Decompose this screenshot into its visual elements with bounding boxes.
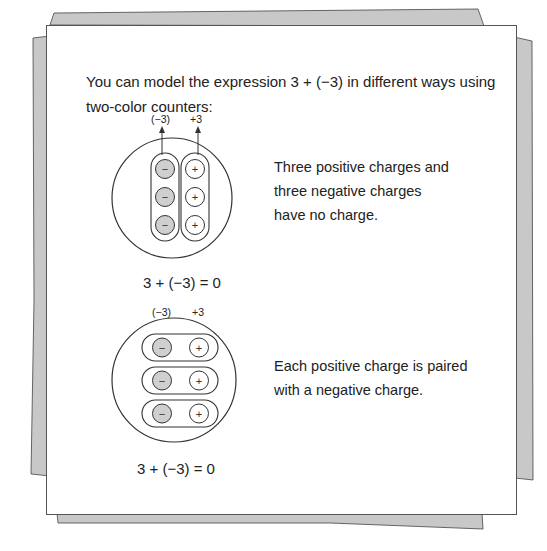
svg-text:−: − [159, 408, 165, 420]
model2-description: Each positive charge is paired with a ne… [274, 354, 467, 402]
model2-diagram: − − − + + + [0, 0, 547, 551]
svg-text:+: + [196, 408, 202, 420]
svg-text:+: + [196, 375, 202, 387]
model2-label-negative: (−3) [152, 306, 171, 318]
svg-text:−: − [159, 342, 165, 354]
svg-text:+: + [196, 342, 202, 354]
negative-counters: − − − [153, 338, 172, 423]
positive-counters: + + + [190, 338, 209, 423]
model2-equation: 3 + (−3) = 0 [137, 460, 215, 477]
svg-text:−: − [159, 375, 165, 387]
model2-label-positive: +3 [192, 306, 204, 318]
